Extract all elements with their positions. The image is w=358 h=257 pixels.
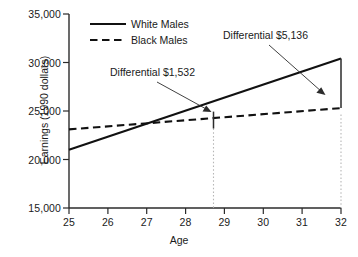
annotation-arrow-5136	[269, 45, 326, 95]
x-axis-title: Age	[0, 234, 358, 246]
x-tick-label-28: 28	[180, 216, 192, 228]
y-axis-title: Earnings (1990 dollars)	[38, 30, 50, 190]
x-axis-ticks	[69, 208, 341, 214]
x-tick-label-29: 29	[218, 216, 230, 228]
annotation-arrow-1532	[157, 82, 212, 112]
legend-label-white-males: White Males	[131, 18, 189, 30]
x-tick-label-30: 30	[257, 216, 269, 228]
x-tick-label-25: 25	[63, 216, 75, 228]
x-tick-label-31: 31	[296, 216, 308, 228]
y-axis-ticks	[63, 14, 69, 208]
y-tick-label-35000: 35,000	[28, 8, 61, 20]
annotation-differential-1532: Differential $1,532	[110, 66, 195, 78]
x-tick-label-26: 26	[102, 216, 114, 228]
x-tick-label-27: 27	[141, 216, 153, 228]
earnings-by-age-line-chart: 35,000 30,000 25,000 20,000 15,000 25 26…	[0, 0, 358, 257]
x-tick-label-32: 32	[335, 216, 347, 228]
y-tick-label-15000: 15,000	[28, 202, 61, 214]
legend-label-black-males: Black Males	[131, 34, 188, 46]
droplines	[214, 115, 342, 209]
legend-keys	[90, 24, 126, 40]
annotation-differential-5136: Differential $5,136	[223, 29, 308, 41]
